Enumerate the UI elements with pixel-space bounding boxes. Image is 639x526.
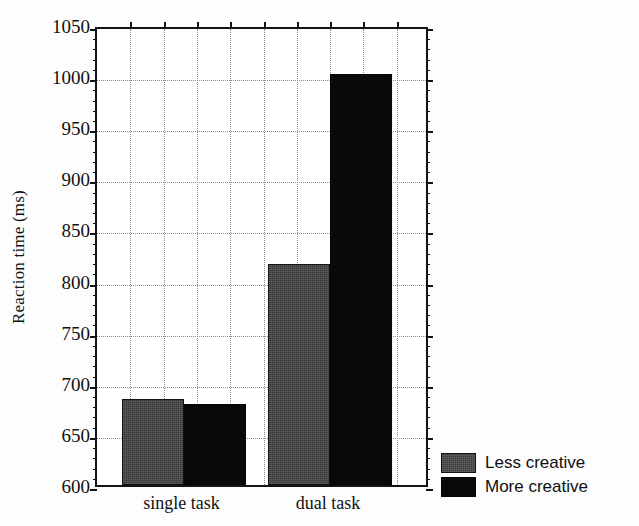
y-tick-label: 1000 bbox=[32, 68, 90, 87]
y-axis-title: Reaction time (ms) bbox=[6, 27, 32, 487]
y-tick-label: 800 bbox=[32, 273, 90, 292]
y-tick-label: 750 bbox=[32, 324, 90, 343]
y-axis-tick-labels: 60065070075080085090095010001050 bbox=[30, 0, 90, 526]
axis-tick-minor bbox=[426, 244, 430, 245]
bar-chart-figure: Reaction time (ms) 600650700750800850900… bbox=[0, 0, 639, 526]
x-tick-label-dual-task: dual task bbox=[228, 493, 428, 513]
axis-tick-major bbox=[90, 29, 97, 31]
axis-tick-minor bbox=[426, 274, 430, 275]
axis-tick-minor bbox=[426, 469, 430, 470]
axis-tick-minor bbox=[426, 141, 430, 142]
legend-label: Less creative bbox=[485, 454, 585, 472]
axis-tick-minor bbox=[426, 295, 430, 296]
axis-tick-minor bbox=[426, 49, 430, 50]
axis-tick-top bbox=[330, 22, 332, 29]
bar-single-task-more-creative bbox=[184, 404, 246, 485]
axis-tick-major bbox=[90, 438, 97, 440]
legend-item-more-creative: More creative bbox=[441, 476, 588, 498]
axis-tick-major bbox=[426, 131, 433, 133]
axis-tick-major bbox=[90, 80, 97, 82]
axis-tick-top bbox=[297, 22, 299, 29]
axis-tick-minor bbox=[426, 152, 430, 153]
axis-tick-minor bbox=[426, 39, 430, 40]
axis-tick-minor bbox=[426, 417, 430, 418]
axis-tick-minor bbox=[426, 264, 430, 265]
axis-tick-minor bbox=[426, 203, 430, 204]
axis-tick-major bbox=[90, 336, 97, 338]
axis-tick-major bbox=[426, 489, 433, 491]
axis-tick-minor bbox=[426, 397, 430, 398]
less-creative-swatch bbox=[441, 453, 476, 473]
axis-tick-minor bbox=[426, 448, 430, 449]
axis-tick-major bbox=[426, 182, 433, 184]
more-creative-swatch bbox=[441, 477, 476, 497]
y-tick-label: 950 bbox=[32, 119, 90, 138]
axis-tick-minor bbox=[426, 101, 430, 102]
axis-tick-minor bbox=[426, 162, 430, 163]
axis-tick-top bbox=[164, 22, 166, 29]
axis-tick-minor bbox=[426, 458, 430, 459]
y-tick-label: 700 bbox=[32, 375, 90, 394]
axis-tick-minor bbox=[426, 60, 430, 61]
axis-tick-top bbox=[397, 22, 399, 29]
axis-tick-major bbox=[90, 285, 97, 287]
axis-tick-major bbox=[426, 336, 433, 338]
bar-dual-task-more-creative bbox=[330, 74, 392, 485]
y-tick-label: 850 bbox=[32, 221, 90, 240]
axis-tick-minor bbox=[426, 407, 430, 408]
axis-tick-minor bbox=[426, 366, 430, 367]
axis-tick-top bbox=[230, 22, 232, 29]
axis-tick-minor bbox=[426, 254, 430, 255]
axis-tick-minor bbox=[426, 377, 430, 378]
axis-tick-major bbox=[426, 233, 433, 235]
plot-area bbox=[95, 27, 428, 487]
axis-tick-minor bbox=[426, 346, 430, 347]
y-tick-label: 1050 bbox=[32, 17, 90, 36]
axis-tick-minor bbox=[426, 356, 430, 357]
axis-tick-top bbox=[363, 22, 365, 29]
axis-tick-minor bbox=[426, 428, 430, 429]
axis-tick-minor bbox=[426, 213, 430, 214]
bar-series-group bbox=[97, 29, 426, 485]
axis-tick-minor bbox=[426, 305, 430, 306]
axis-tick-major bbox=[426, 387, 433, 389]
axis-tick-major bbox=[90, 387, 97, 389]
axis-tick-major bbox=[426, 285, 433, 287]
axis-tick-major bbox=[426, 438, 433, 440]
y-tick-label: 900 bbox=[32, 170, 90, 189]
axis-tick-minor bbox=[426, 479, 430, 480]
chart-legend: Less creativeMore creative bbox=[441, 452, 588, 498]
axis-tick-major bbox=[90, 182, 97, 184]
axis-tick-top bbox=[197, 22, 199, 29]
legend-item-less-creative: Less creative bbox=[441, 452, 588, 474]
legend-label: More creative bbox=[485, 478, 588, 496]
axis-tick-minor bbox=[426, 172, 430, 173]
bar-single-task-less-creative bbox=[122, 399, 184, 485]
axis-tick-minor bbox=[426, 193, 430, 194]
axis-tick-minor bbox=[426, 111, 430, 112]
bar-dual-task-less-creative bbox=[268, 264, 330, 485]
axis-tick-minor bbox=[426, 325, 430, 326]
axis-tick-minor bbox=[426, 70, 430, 71]
axis-tick-minor bbox=[426, 223, 430, 224]
axis-tick-top bbox=[264, 22, 266, 29]
y-tick-label: 650 bbox=[32, 426, 90, 445]
axis-tick-top bbox=[130, 22, 132, 29]
axis-tick-major bbox=[90, 489, 97, 491]
axis-tick-major bbox=[426, 29, 433, 31]
axis-tick-major bbox=[426, 80, 433, 82]
axis-tick-major bbox=[90, 131, 97, 133]
axis-tick-major bbox=[90, 233, 97, 235]
axis-tick-minor bbox=[426, 90, 430, 91]
axis-tick-minor bbox=[426, 315, 430, 316]
axis-tick-minor bbox=[426, 121, 430, 122]
